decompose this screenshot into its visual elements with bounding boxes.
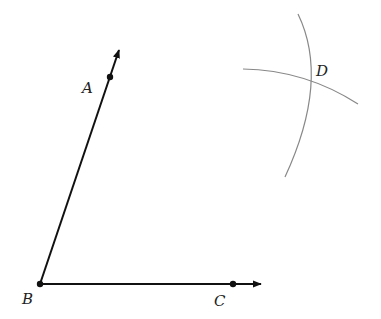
label-B: B — [21, 290, 33, 308]
point-B — [37, 281, 43, 287]
point-A — [107, 74, 113, 80]
label-C: C — [214, 292, 226, 310]
label-A: A — [80, 79, 93, 97]
arc-horizontal — [243, 69, 358, 104]
arc-vertical — [285, 14, 311, 177]
angle-construction-diagram: A B C D — [0, 0, 381, 319]
ray-BA — [40, 50, 119, 284]
point-C — [230, 281, 236, 287]
label-D: D — [315, 62, 328, 80]
